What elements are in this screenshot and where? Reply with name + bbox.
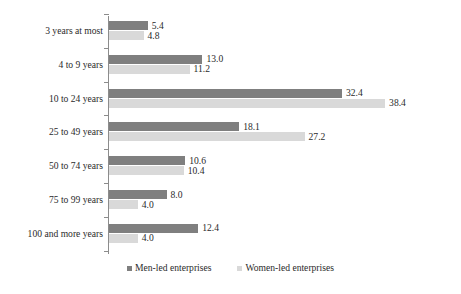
bar-value-label: 8.0 [171, 190, 183, 200]
bar-chart: 3 years at most5.44.84 to 9 years13.011.… [0, 0, 461, 294]
bar-men-led: 32.4 [109, 89, 342, 98]
bar-women-led: 11.2 [109, 65, 190, 74]
bar-value-label: 38.4 [389, 98, 406, 108]
bar-group: 13.011.2 [109, 55, 202, 74]
bar-group: 10.610.4 [109, 156, 185, 175]
legend-label: Women-led enterprises [245, 262, 333, 274]
bar-value-label: 11.2 [194, 64, 210, 74]
bar-value-label: 4.0 [142, 233, 154, 243]
bar-value-label: 4.8 [148, 31, 160, 41]
legend-item-women-led[interactable]: Women-led enterprises [237, 262, 333, 274]
bar-group: 32.438.4 [109, 89, 385, 108]
bar-group: 12.44.0 [109, 224, 198, 243]
square-swatch-icon [237, 266, 242, 271]
chart-legend: Men-led enterprisesWomen-led enterprises [0, 262, 461, 274]
chart-row: 75 to 99 years8.04.0 [0, 187, 461, 221]
bar-men-led: 18.1 [109, 122, 239, 131]
chart-row: 100 and more years12.44.0 [0, 221, 461, 255]
legend-label: Men-led enterprises [135, 262, 211, 274]
category-label: 75 to 99 years [0, 194, 103, 206]
bar-women-led: 27.2 [109, 132, 305, 141]
bar-value-label: 4.0 [142, 200, 154, 210]
bar-women-led: 4.0 [109, 200, 138, 209]
bar-women-led: 38.4 [109, 99, 385, 108]
bar-men-led: 13.0 [109, 55, 202, 64]
bar-value-label: 18.1 [243, 122, 260, 132]
category-label: 3 years at most [0, 25, 103, 37]
legend-item-men-led[interactable]: Men-led enterprises [127, 262, 211, 274]
category-label: 100 and more years [0, 228, 103, 240]
bar-group: 5.44.8 [109, 21, 148, 40]
bar-women-led: 4.8 [109, 31, 144, 40]
category-label: 50 to 74 years [0, 160, 103, 172]
category-label: 25 to 49 years [0, 126, 103, 138]
chart-row: 10 to 24 years32.438.4 [0, 86, 461, 120]
square-swatch-icon [127, 266, 132, 271]
bar-men-led: 5.4 [109, 21, 148, 30]
chart-row: 25 to 49 years18.127.2 [0, 119, 461, 153]
bar-group: 8.04.0 [109, 190, 167, 209]
plot-area: 3 years at most5.44.84 to 9 years13.011.… [0, 0, 461, 258]
bar-women-led: 4.0 [109, 234, 138, 243]
bar-value-label: 32.4 [346, 88, 363, 98]
category-label: 4 to 9 years [0, 59, 103, 71]
bar-value-label: 27.2 [309, 132, 326, 142]
bar-women-led: 10.4 [109, 166, 184, 175]
bar-men-led: 8.0 [109, 190, 167, 199]
chart-row: 4 to 9 years13.011.2 [0, 52, 461, 86]
bar-value-label: 10.4 [188, 166, 205, 176]
bar-group: 18.127.2 [109, 122, 305, 141]
axis-tick [104, 14, 109, 15]
bar-men-led: 10.6 [109, 156, 185, 165]
category-label: 10 to 24 years [0, 93, 103, 105]
bar-value-label: 12.4 [202, 223, 219, 233]
chart-row: 3 years at most5.44.8 [0, 18, 461, 52]
chart-row: 50 to 74 years10.610.4 [0, 153, 461, 187]
